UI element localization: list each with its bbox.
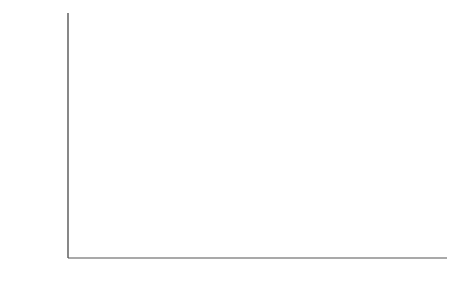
x-axis-tick-labels	[0, 0, 458, 298]
caption-fragment	[8, 290, 450, 297]
chart-figure	[0, 0, 458, 298]
